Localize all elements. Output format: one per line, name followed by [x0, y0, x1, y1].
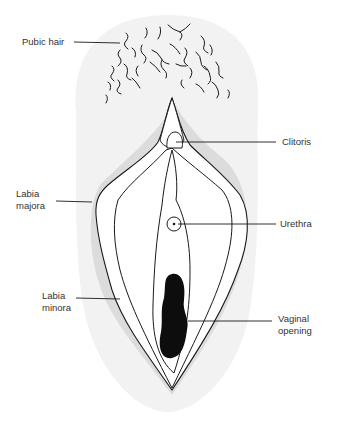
label-vaginal-opening: Vaginal opening — [278, 313, 312, 337]
label-labia-minora: Labia minora — [42, 290, 71, 314]
label-labia-majora: Labia majora — [16, 188, 45, 212]
label-clitoris: Clitoris — [282, 136, 311, 148]
anatomy-diagram: Pubic hair Clitoris Labia majora Urethra… — [0, 0, 337, 422]
diagram-illustration — [0, 0, 337, 422]
urethra-dot — [173, 223, 176, 226]
label-pubic-hair: Pubic hair — [22, 36, 64, 48]
label-urethra: Urethra — [280, 218, 312, 230]
